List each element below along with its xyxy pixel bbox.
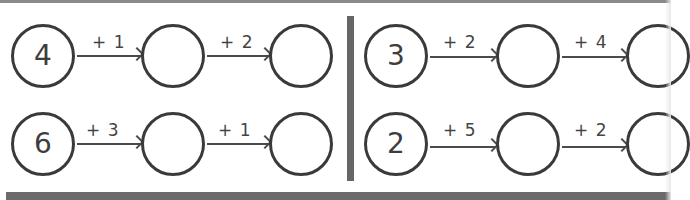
answer-circle[interactable] xyxy=(269,112,333,176)
start-circle: 6 xyxy=(11,112,75,176)
answer-circle[interactable] xyxy=(269,24,333,88)
page-edge-shadow xyxy=(665,0,671,200)
start-circle: 3 xyxy=(364,24,428,88)
start-number: 4 xyxy=(34,42,52,70)
arrow-right-icon xyxy=(207,55,269,57)
start-number: 2 xyxy=(387,130,405,158)
arrow-right-icon xyxy=(562,146,626,148)
start-number: 6 xyxy=(34,130,52,158)
step-label: + 2 xyxy=(443,32,476,52)
answer-circle[interactable] xyxy=(496,112,560,176)
arrow-right-icon xyxy=(430,146,496,148)
step-label: + 2 xyxy=(220,32,253,52)
bottom-bar xyxy=(6,192,671,200)
arrow-right-icon xyxy=(430,56,496,58)
arrow-right-icon xyxy=(77,143,141,145)
step-label: + 2 xyxy=(574,120,607,140)
panel-divider xyxy=(347,16,354,181)
step-label: + 4 xyxy=(574,32,607,52)
arrow-right-icon xyxy=(562,56,626,58)
step-label: + 1 xyxy=(92,32,125,52)
top-rule xyxy=(0,0,671,3)
step-label: + 1 xyxy=(218,120,251,140)
arrow-right-icon xyxy=(207,143,269,145)
start-circle: 2 xyxy=(364,112,428,176)
step-label: + 5 xyxy=(443,120,476,140)
answer-circle[interactable] xyxy=(141,112,205,176)
step-label: + 3 xyxy=(86,120,119,140)
answer-circle[interactable] xyxy=(496,24,560,88)
answer-circle[interactable] xyxy=(141,24,205,88)
answer-circle[interactable] xyxy=(626,24,690,88)
start-number: 3 xyxy=(387,42,405,70)
start-circle: 4 xyxy=(11,24,75,88)
answer-circle[interactable] xyxy=(626,112,690,176)
arrow-right-icon xyxy=(77,55,141,57)
